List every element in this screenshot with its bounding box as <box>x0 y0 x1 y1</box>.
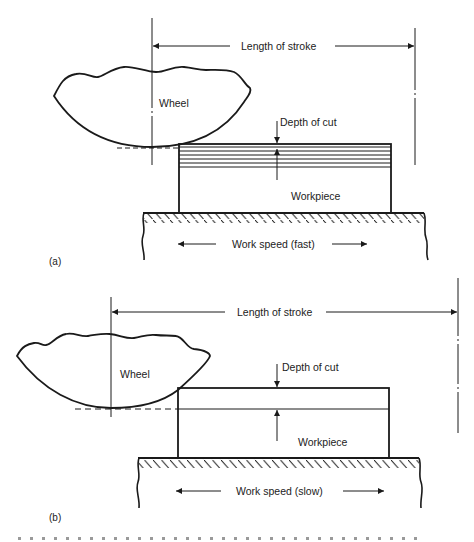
panel-label-b: (b) <box>49 512 61 524</box>
grinding-stroke-diagram: Length of stroke Wheel Depth of cut Work… <box>0 0 474 542</box>
stroke-label-b: Length of stroke <box>237 306 312 318</box>
wheel-label-a: Wheel <box>159 97 189 109</box>
stroke-label-a: Length of stroke <box>241 40 316 52</box>
wheel-b <box>17 334 210 408</box>
depth-label-a: Depth of cut <box>280 116 337 128</box>
table-b <box>137 458 422 508</box>
workpiece-label-b: Workpiece <box>298 436 347 448</box>
workpiece-label-a: Workpiece <box>291 190 340 202</box>
figure-caption-clipped <box>18 537 438 542</box>
diagram-canvas <box>0 0 474 542</box>
wheel-label-b: Wheel <box>120 368 150 380</box>
panel-label-a: (a) <box>49 256 61 268</box>
stroke-dimension-b <box>111 278 458 433</box>
speed-label-b: Work speed (slow) <box>236 485 323 497</box>
workpiece-b <box>178 388 389 458</box>
workpiece-a <box>179 144 391 213</box>
depth-label-b: Depth of cut <box>282 361 339 373</box>
table-a <box>142 213 428 260</box>
speed-label-a: Work speed (fast) <box>232 238 315 250</box>
panel-a <box>54 18 428 260</box>
